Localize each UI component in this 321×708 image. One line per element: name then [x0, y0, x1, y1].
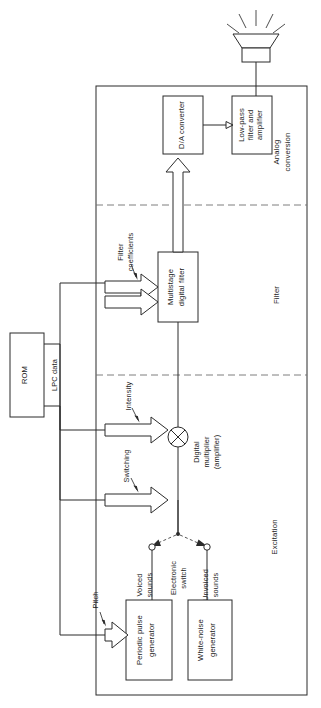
- label-switching: Switching: [122, 450, 139, 493]
- white-noise-line1: White-noise: [196, 619, 205, 661]
- bus-arrow-filter-coefficients: [105, 274, 158, 315]
- bus-arrow-switching: [105, 487, 168, 513]
- electronic-switch-line1: Electronic: [169, 561, 178, 595]
- multistage-filter-line1: Multistage: [166, 269, 175, 305]
- block-white-noise-generator: White-noise generator: [188, 600, 232, 680]
- unvoiced-sounds-line1: Unvoiced: [201, 569, 210, 601]
- electronic-switch-line2: switch: [179, 567, 188, 588]
- lowpass-label-line2: filter and: [246, 110, 255, 141]
- filter-coefficients-line2: coefficients: [126, 233, 135, 272]
- filter-coefficients-line1: Filter: [116, 243, 125, 261]
- multiplier-label-line2: multiplier: [202, 436, 211, 467]
- lowpass-label-line1: Low-pass: [237, 108, 246, 142]
- periodic-pulse-line1: Periodic pulse: [135, 615, 144, 665]
- node-digital-multiplier: Digital multiplier (amplifier): [168, 427, 221, 469]
- label-pitch: Pitch: [91, 591, 106, 626]
- block-da-converter: D/A converter: [163, 96, 203, 154]
- lpc-synthesizer-block-diagram: Analog conversion Filter Excitation D/A …: [0, 0, 321, 708]
- block-rom: ROM: [10, 333, 44, 417]
- multistage-filter-line2: digital filter: [177, 267, 186, 306]
- label-filter-coefficients: Filter coefficients: [116, 233, 138, 280]
- switching-label: Switching: [122, 450, 131, 483]
- unvoiced-sounds-line2: sounds: [211, 572, 220, 597]
- label-intensity: Intensity: [124, 381, 140, 422]
- region-label-filter: Filter: [272, 286, 281, 304]
- intensity-label: Intensity: [124, 381, 133, 410]
- block-multistage-digital-filter: Multistage digital filter: [158, 252, 198, 322]
- voiced-sounds-line2: sounds: [145, 572, 154, 597]
- region-label-analog-conversion: Analog conversion: [272, 132, 292, 171]
- region-label-excitation: Excitation: [270, 519, 279, 554]
- periodic-pulse-line2: generator: [147, 623, 156, 657]
- bus-arrow-intensity: [105, 417, 168, 443]
- lpc-data-label: LPC data: [50, 358, 59, 391]
- bus-lpc-data: LPC data: [44, 283, 113, 635]
- analog-region-line1: Analog: [272, 139, 281, 164]
- block-lowpass-filter-amplifier: Low-pass filter and amplifier: [232, 96, 272, 154]
- white-noise-line2: generator: [208, 623, 217, 657]
- multiplier-label-line3: (amplifier): [212, 435, 221, 470]
- multiplier-label-line1: Digital: [192, 441, 201, 463]
- block-periodic-pulse-generator: Periodic pulse generator: [126, 600, 172, 680]
- rom-label: ROM: [20, 366, 29, 384]
- da-converter-label: D/A converter: [177, 101, 186, 149]
- voiced-sounds-line1: Voiced: [135, 573, 144, 596]
- bus-arrow-pitch: [105, 622, 128, 648]
- connector-da-to-lowpass: [203, 122, 233, 129]
- lowpass-label-line3: amplifier: [255, 110, 264, 140]
- pitch-label: Pitch: [91, 591, 100, 608]
- analog-region-line2: conversion: [283, 132, 292, 171]
